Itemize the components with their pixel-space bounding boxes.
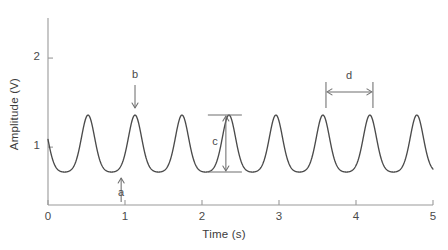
x-tick-label: 2	[182, 210, 222, 222]
y-tick-label: 2	[14, 50, 40, 62]
chart-figure: Amplitude (V) Time (s) 01234512abcd	[0, 0, 448, 250]
y-axis-ticks	[48, 58, 53, 147]
x-tick-label: 1	[105, 210, 145, 222]
annotation-label-c: c	[195, 135, 235, 147]
x-tick-label: 3	[259, 210, 299, 222]
waveform-curve	[48, 115, 433, 172]
annotation-label-d: d	[329, 69, 369, 81]
y-tick-label: 1	[14, 139, 40, 151]
annotation-layer	[118, 82, 373, 202]
x-axis-ticks	[48, 200, 433, 205]
annotation-label-b: b	[115, 68, 155, 80]
x-tick-label: 5	[413, 210, 448, 222]
annotation-label-a: a	[101, 186, 141, 198]
x-tick-label: 4	[336, 210, 376, 222]
x-tick-label: 0	[28, 210, 68, 222]
x-axis-title: Time (s)	[0, 228, 448, 240]
